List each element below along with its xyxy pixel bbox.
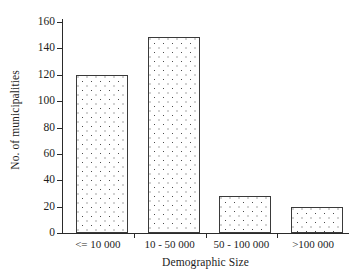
y-tick-mark (57, 48, 62, 49)
bar[interactable] (76, 75, 128, 233)
y-tick-label: 20 (25, 201, 55, 213)
y-tick-mark (57, 233, 62, 234)
x-axis-title: Demographic Size (62, 256, 349, 268)
y-tick-label: 60 (25, 148, 55, 160)
y-tick-label: 80 (25, 122, 55, 134)
y-tick-mark (57, 180, 62, 181)
y-tick-mark (57, 22, 62, 23)
y-tick-label: 40 (25, 174, 55, 186)
y-tick-label: 0 (25, 227, 55, 239)
x-tick-label: 50 - 100 000 (206, 238, 278, 250)
y-tick-label: 100 (25, 95, 55, 107)
y-tick-mark (57, 207, 62, 208)
y-tick-mark (57, 128, 62, 129)
y-tick-label: 160 (25, 16, 55, 28)
x-tick-label: <= 10 000 (62, 238, 134, 250)
x-tick-label: 10 - 50 000 (134, 238, 206, 250)
bar[interactable] (291, 207, 343, 233)
y-tick-mark (57, 154, 62, 155)
bar[interactable] (219, 196, 271, 233)
y-tick-mark (57, 101, 62, 102)
y-axis-line (62, 19, 63, 234)
bar-chart: No. of municipalities 020406080100120140… (0, 0, 363, 277)
plot-area: 020406080100120140160 <= 10 00010 - 50 0… (0, 0, 363, 277)
y-tick-label: 140 (25, 42, 55, 54)
y-tick-label: 120 (25, 69, 55, 81)
bar[interactable] (148, 37, 200, 233)
y-tick-mark (57, 75, 62, 76)
x-tick-label: >100 000 (277, 238, 349, 250)
